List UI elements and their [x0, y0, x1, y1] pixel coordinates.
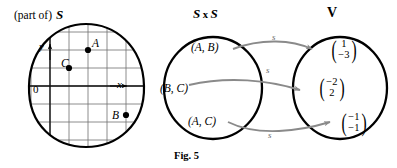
left-panel-title-text: (part of): [14, 9, 52, 21]
mapping-label-ac: s: [268, 131, 272, 140]
vector-1-components: 1 −3: [338, 39, 349, 60]
left-panel-title: (part of)S: [14, 8, 63, 22]
x-axis-label: x: [117, 79, 122, 90]
vector-1-open-paren: (: [332, 40, 337, 60]
domain-set-symbol-1: S: [193, 6, 201, 21]
vector-3-close-paren: ): [361, 113, 366, 133]
mapping-arrow-bc: [189, 80, 300, 90]
element-pair-ab: (A, B): [191, 42, 218, 54]
point-B-label: B: [112, 110, 119, 122]
origin-label: 0: [33, 84, 39, 95]
domain-set-symbol-2: S: [210, 6, 218, 21]
vector-2-components: −2 2: [326, 77, 337, 98]
mapping-label-bc: s: [266, 66, 270, 75]
point-B: [123, 112, 129, 118]
figure-5: (part of)S SxS V: [0, 0, 397, 168]
vector-1-component-bottom: −3: [338, 50, 349, 61]
vector-1: ( 1 −3 ): [330, 39, 358, 60]
left-panel-set-symbol: S: [56, 7, 63, 22]
point-C-label: C: [61, 58, 69, 70]
element-pair-ac: (A, C): [188, 116, 216, 128]
set-S-outline: [29, 24, 144, 147]
mapping-arrow-ac: [228, 122, 330, 131]
element-pair-bc: (B, C): [160, 83, 188, 95]
vector-3-component-bottom: −1: [348, 123, 359, 134]
domain-set-title: SxS: [193, 7, 218, 21]
vector-3: ( −1 −1 ): [340, 112, 368, 133]
vector-3-open-paren: (: [342, 113, 347, 133]
y-axis-label: y: [39, 41, 44, 52]
vector-2-component-bottom: 2: [329, 88, 334, 99]
vector-2-close-paren: ): [339, 78, 344, 98]
cartesian-product-icon: x: [203, 9, 209, 20]
vector-3-components: −1 −1: [348, 112, 359, 133]
vector-1-close-paren: ): [351, 40, 356, 60]
mapping-arrow-ab: [233, 41, 312, 49]
figure-caption: Fig. 5: [174, 151, 199, 162]
codomain-set-title: V: [327, 6, 337, 20]
mapping-label-ab: s: [272, 33, 276, 42]
vector-2-open-paren: (: [320, 78, 325, 98]
vector-2: ( −2 2 ): [318, 77, 346, 98]
point-A: [85, 47, 91, 53]
point-A-label: A: [92, 38, 99, 50]
